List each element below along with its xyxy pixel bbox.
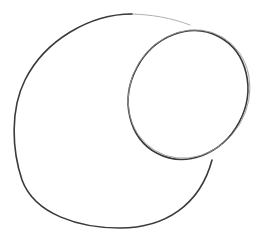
sketch-drawing [0,0,271,244]
outer-curve [14,14,212,228]
inner-ellipse-sketch-line [104,7,271,181]
sketch-canvas: Pencil sketch of a large open curved sha… [0,0,271,244]
inner-ellipse [106,9,270,180]
outer-curve-faint-top [128,14,190,25]
